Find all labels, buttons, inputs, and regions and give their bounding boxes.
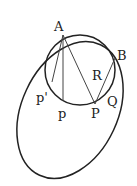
label-Q: Q	[107, 94, 118, 109]
line-A-P	[63, 35, 95, 104]
label-A: A	[53, 19, 64, 34]
label-p: p	[58, 106, 66, 121]
geometry-diagram: A B R p' p P Q	[0, 0, 137, 186]
line-A-pprime	[52, 35, 63, 82]
label-B: B	[117, 48, 127, 63]
label-p-prime: p'	[36, 90, 48, 105]
label-R: R	[92, 68, 103, 83]
inner-circle	[45, 35, 115, 105]
label-P: P	[91, 106, 100, 121]
